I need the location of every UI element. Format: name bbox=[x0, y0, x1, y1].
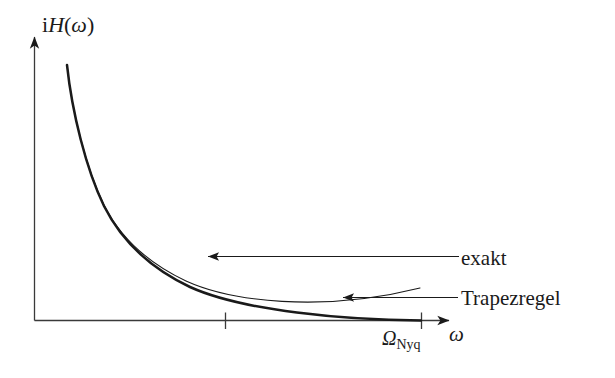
series-trapezregel-curve bbox=[67, 65, 421, 321]
nyquist-subscript: Nyq bbox=[396, 337, 420, 352]
plot-svg bbox=[0, 0, 615, 378]
x-tick-label-nyquist: ΩNyq bbox=[382, 327, 421, 350]
nyquist-symbol: Ω bbox=[382, 327, 396, 349]
y-axis-label: iH(ω) bbox=[42, 12, 94, 38]
y-axis-label-function: H bbox=[48, 12, 64, 37]
annotation-label-trapezregel: Trapezregel bbox=[461, 286, 561, 311]
y-axis-label-variable: ω bbox=[71, 12, 87, 37]
figure-canvas: iH(ω) ω ΩNyq exakt Trapezregel bbox=[0, 0, 615, 378]
x-axis-label: ω bbox=[449, 322, 464, 347]
series-exakt-curve bbox=[67, 65, 420, 302]
y-axis-label-close-paren: ) bbox=[87, 12, 94, 37]
annotation-label-exakt: exakt bbox=[461, 246, 506, 271]
